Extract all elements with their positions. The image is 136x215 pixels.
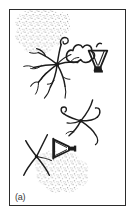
branching-cell-middle — [61, 100, 100, 145]
stipple-region-top-left — [10, 10, 85, 59]
panel-label: (a) — [15, 192, 25, 202]
figure-panel: (a) — [0, 0, 136, 215]
figure-frame-border: (a) — [9, 9, 126, 206]
figure-drawing-canvas — [10, 10, 125, 205]
